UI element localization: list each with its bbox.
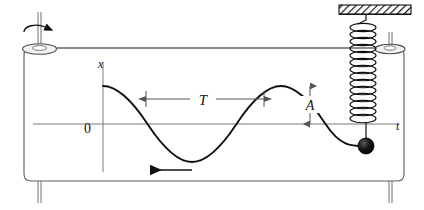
left-spool-hub (33, 46, 47, 51)
figure-canvas: T A x 0 t (0, 0, 424, 210)
ceiling-bracket (339, 5, 411, 15)
origin-label: 0 (84, 121, 91, 136)
x-axis-label: x (97, 57, 104, 71)
amplitude-label: A (305, 98, 315, 113)
right-spool-hub (384, 46, 396, 50)
rotation-arrow-icon (24, 25, 45, 32)
recording-paper (24, 48, 404, 181)
pen-bob (358, 138, 374, 154)
